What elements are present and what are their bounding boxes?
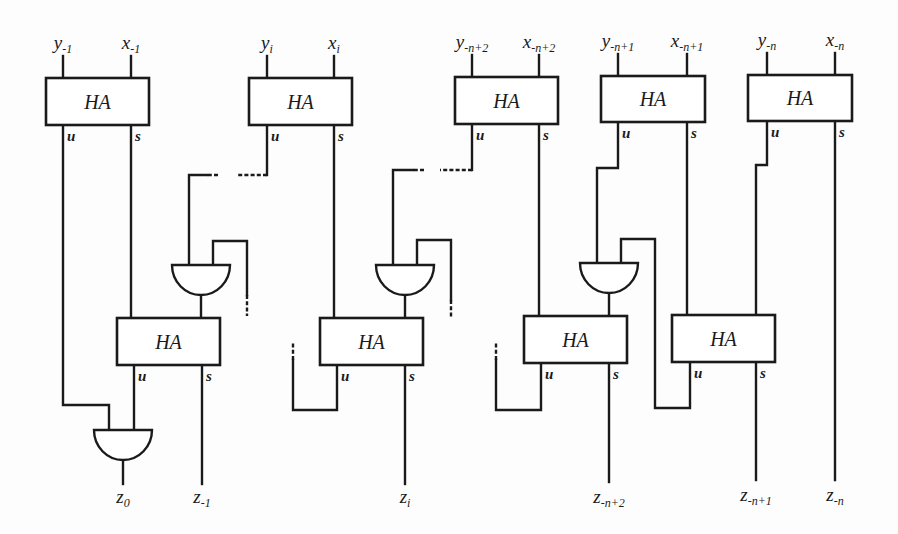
ha-bot-4-port-s: s <box>759 365 766 381</box>
ha-bot-2-port-s: s <box>408 368 415 384</box>
and-gate-3 <box>580 263 638 293</box>
output-label-z0: z0 <box>115 486 129 510</box>
ha-bot-4-label: HA <box>709 328 737 350</box>
ha-bot-2-label: HA <box>357 331 385 353</box>
ha-top-1-input-x-label: x-1 <box>121 32 140 56</box>
ha-top-4-port-s: s <box>690 125 697 141</box>
ha-top-1-label: HA <box>83 91 111 113</box>
circuit-svg: y-1x-1yixiy-n+2x-n+2y-n+1x-n+1y-nx-nHAus… <box>0 0 898 534</box>
ha-bot-1-port-u: u <box>138 368 146 384</box>
ha-top-2-input-x-label: xi <box>327 32 340 56</box>
ha-top-4-port-u: u <box>622 125 630 141</box>
ha-bot-3-port-u: u <box>545 366 553 382</box>
output-label-z-n+2: z-n+2 <box>592 486 625 510</box>
u-bot2-loop <box>293 360 337 410</box>
ha-top-3-port-s: s <box>542 127 549 143</box>
half-adder-blocks <box>46 75 852 365</box>
ha-top-3-label: HA <box>492 90 520 112</box>
ha-top-5-input-x-label: x-n <box>825 29 844 53</box>
ha-bot-4-port-u: u <box>694 365 702 381</box>
ha-top-5-label: HA <box>786 87 814 109</box>
ha-top-5-port-u: u <box>771 124 779 140</box>
ha-top-2-input-y-label: yi <box>259 32 273 56</box>
output-label-zi: zi <box>399 486 411 510</box>
ha-bot-1-port-s: s <box>205 368 212 384</box>
and-gate-2 <box>376 265 434 295</box>
ha-top-3-port-u: u <box>476 127 484 143</box>
half-adder-circuit-diagram: y-1x-1yixiy-n+2x-n+2y-n+1x-n+1y-nx-nHAus… <box>0 0 898 534</box>
labels: y-1x-1yixiy-n+2x-n+2y-n+1x-n+1y-nx-nHAus… <box>52 29 845 510</box>
carry-u-top1 <box>63 125 109 440</box>
ha-bot-1-label: HA <box>154 331 182 353</box>
ha-bot-3-port-s: s <box>612 366 619 382</box>
and-gate-1 <box>172 265 230 295</box>
ha-top-2-label: HA <box>286 91 314 113</box>
u-top5-to-bot4 <box>756 121 767 315</box>
ha-top-3-input-x-label: x-n+2 <box>522 31 556 55</box>
ha-top-1-port-s: s <box>134 128 141 144</box>
output-label-z-1: z-1 <box>192 486 210 510</box>
ha-top-1-port-u: u <box>67 128 75 144</box>
ha-top-4-input-y-label: y-n+1 <box>600 30 635 54</box>
u-top4-to-gate3 <box>597 122 618 281</box>
ha-top-3-input-y-label: y-n+2 <box>454 31 489 55</box>
ha-top-2-port-s: s <box>337 128 344 144</box>
ha-top-4-label: HA <box>639 88 667 110</box>
ha-bot-3-label: HA <box>561 329 589 351</box>
ha-top-1-input-y-label: y-1 <box>52 32 72 56</box>
ha-top-5-input-y-label: y-n <box>756 29 776 53</box>
ha-bot-2-port-u: u <box>341 368 349 384</box>
and-gate-final <box>94 430 152 460</box>
u-bot3-loop <box>496 360 541 410</box>
output-label-z-n+1: z-n+1 <box>739 484 772 508</box>
ha-top-4-input-x-label: x-n+1 <box>670 30 704 54</box>
output-label-z-n: z-n <box>825 484 843 508</box>
ha-top-2-port-u: u <box>271 128 279 144</box>
ha-top-5-port-s: s <box>838 124 845 140</box>
